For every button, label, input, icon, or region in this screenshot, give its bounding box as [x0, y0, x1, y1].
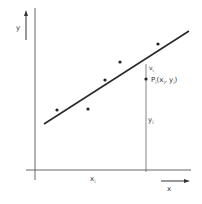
- residual-label: vi: [149, 64, 154, 73]
- regression-diagram: y x vi Pi(xi, yi) yi xi: [0, 0, 202, 204]
- data-point: [86, 107, 89, 110]
- point-pi-label: Pi(xi, yi): [151, 76, 178, 85]
- x-direction-arrow-icon: [161, 179, 190, 183]
- data-points: [55, 42, 159, 111]
- data-point: [55, 108, 58, 111]
- xi-label: xi: [90, 175, 95, 184]
- yi-label: yi: [148, 116, 153, 125]
- data-point: [118, 60, 121, 63]
- x-axis-label: x: [167, 185, 171, 193]
- y-direction-arrow-icon: [24, 10, 28, 40]
- y-axis-label: y: [16, 24, 20, 32]
- data-point: [156, 42, 159, 45]
- highlighted-point-pi: [144, 77, 147, 80]
- data-point: [103, 78, 106, 81]
